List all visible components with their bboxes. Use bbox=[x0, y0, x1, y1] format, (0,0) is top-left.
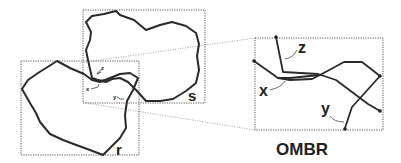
label-x-small: x bbox=[86, 86, 90, 92]
vertex bbox=[378, 109, 382, 113]
vertex bbox=[378, 74, 382, 78]
leader-z-zoom bbox=[285, 50, 297, 59]
leader-y-zoom bbox=[330, 116, 344, 122]
label-x-zoom: x bbox=[259, 82, 268, 99]
label-polygon-s: s bbox=[188, 87, 196, 104]
ombr-diagram: z x y s r z x y OMBR bbox=[0, 0, 401, 163]
mbr-s bbox=[83, 10, 205, 103]
vertex bbox=[252, 59, 256, 63]
label-z-zoom: z bbox=[298, 39, 306, 56]
label-y-zoom: y bbox=[321, 100, 330, 117]
label-y-small: y bbox=[113, 94, 117, 100]
leader-x-zoom bbox=[270, 81, 285, 90]
zoom-connector-top bbox=[86, 38, 255, 62]
leader-x-small bbox=[91, 84, 99, 89]
ombr-caption: OMBR bbox=[276, 140, 328, 159]
label-polygon-r: r bbox=[116, 141, 122, 158]
label-z-small: z bbox=[101, 65, 104, 71]
leader-y-small bbox=[117, 97, 124, 99]
zoom-polyline-r bbox=[254, 61, 380, 128]
ombr-box bbox=[255, 38, 383, 130]
vertex bbox=[343, 127, 347, 131]
polygon-s bbox=[86, 11, 199, 101]
zoom-connector-bottom bbox=[86, 103, 255, 130]
vertex bbox=[274, 35, 278, 39]
